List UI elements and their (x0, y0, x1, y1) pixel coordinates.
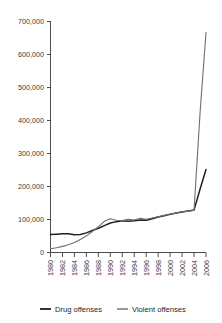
x-tick-label: 2000 (166, 260, 175, 276)
legend-label-1: Violent offenses (132, 305, 186, 314)
x-axis-tick-labels: 1980198219841986198819901992199419961998… (46, 260, 211, 276)
x-tick-label: 2004 (190, 260, 199, 276)
y-tick-label: 100,000 (18, 215, 44, 224)
y-axis-tick-labels: 0100,000200,000300,000400,000500,000600,… (18, 17, 44, 257)
y-tick-label: 300,000 (18, 149, 44, 158)
x-tick-label: 1990 (106, 260, 115, 276)
x-axis-tick-marks (51, 253, 207, 258)
y-tick-label: 200,000 (18, 182, 44, 191)
data-series-group (51, 33, 207, 249)
y-tick-label: 500,000 (18, 83, 44, 92)
y-tick-label: 700,000 (18, 17, 44, 26)
legend-label-0: Drug offenses (55, 305, 102, 314)
x-tick-label: 2002 (178, 260, 187, 276)
y-tick-label: 400,000 (18, 116, 44, 125)
x-tick-label: 1994 (130, 260, 139, 276)
y-tick-label: 600,000 (18, 50, 44, 59)
x-tick-label: 1986 (82, 260, 91, 276)
series-line-drug-offenses (51, 170, 207, 235)
x-tick-label: 1980 (46, 260, 55, 276)
series-line-violent-offenses (51, 33, 207, 249)
x-tick-label: 1998 (154, 260, 163, 276)
x-tick-label: 1982 (58, 260, 67, 276)
chart-legend: Drug offensesViolent offenses (40, 305, 186, 314)
x-tick-label: 1984 (70, 260, 79, 276)
line-chart: 0100,000200,000300,000400,000500,000600,… (0, 0, 222, 323)
y-axis-tick-marks (47, 22, 51, 253)
x-tick-label: 1996 (142, 260, 151, 276)
chart-plot-area: 0100,000200,000300,000400,000500,000600,… (0, 0, 222, 323)
x-tick-label: 1992 (118, 260, 127, 276)
x-tick-label: 2006 (202, 260, 211, 276)
x-tick-label: 1988 (94, 260, 103, 276)
y-tick-label: 0 (40, 248, 44, 257)
